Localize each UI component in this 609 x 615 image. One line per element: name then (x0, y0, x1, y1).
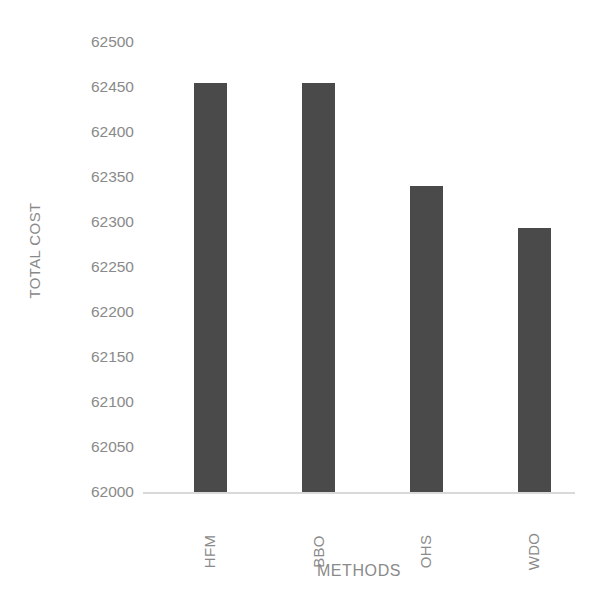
bar-wdo[interactable] (518, 228, 551, 492)
bar-bbo[interactable] (302, 83, 335, 493)
bar-chart: TOTAL COST 62500624506240062350623006225… (0, 0, 609, 615)
y-axis-title: TOTAL COST (14, 0, 54, 500)
x-axis-tick-label-wdo: WDO (503, 498, 565, 560)
x-axis-tick-label-ohs: OHS (395, 498, 457, 560)
bar-ohs[interactable] (410, 186, 443, 492)
y-axis-tick-label: 62150 (58, 348, 134, 366)
x-axis-title: METHODS (143, 562, 575, 580)
bar-hfm[interactable] (194, 83, 227, 493)
y-axis-tick-labels: 6250062450624006235062300622506220062150… (58, 0, 134, 615)
y-axis-tick-label: 62050 (58, 438, 134, 456)
plot-area (143, 42, 593, 492)
y-axis-tick-label: 62350 (58, 168, 134, 186)
x-axis-tick-labels: HFMBBOOHSWDO (143, 498, 593, 560)
y-axis-tick-label: 62100 (58, 393, 134, 411)
y-axis-tick-label: 62000 (58, 483, 134, 501)
y-axis-tick-label: 62300 (58, 213, 134, 231)
x-axis-baseline (143, 492, 575, 494)
x-axis-tick-label-hfm: HFM (179, 498, 241, 560)
y-axis-tick-label: 62500 (58, 33, 134, 51)
x-axis-tick-label-bbo: BBO (287, 498, 349, 560)
y-axis-tick-label: 62200 (58, 303, 134, 321)
y-axis-title-text: TOTAL COST (26, 202, 43, 298)
y-axis-tick-label: 62400 (58, 123, 134, 141)
y-axis-tick-label: 62250 (58, 258, 134, 276)
y-axis-tick-label: 62450 (58, 78, 134, 96)
